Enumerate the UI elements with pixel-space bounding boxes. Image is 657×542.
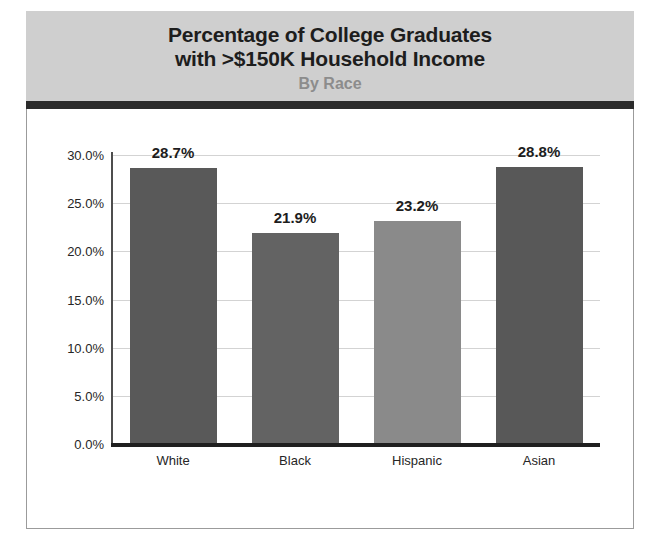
- bar-value-label-asian: 28.8%: [518, 143, 561, 160]
- title-divider-rule: [26, 101, 634, 109]
- y-tick-label: 0.0%: [34, 437, 104, 452]
- x-category-label-asian: Asian: [523, 453, 556, 468]
- chart-subtitle: By Race: [298, 74, 361, 93]
- y-tick-label: 15.0%: [34, 292, 104, 307]
- bar-asian[interactable]: [496, 167, 583, 444]
- y-axis-line: [111, 152, 113, 446]
- x-category-label-white: White: [156, 453, 189, 468]
- bar-hispanic[interactable]: [374, 221, 461, 444]
- bar-value-label-white: 28.7%: [152, 144, 195, 161]
- bar-black[interactable]: [252, 233, 339, 444]
- chart-title-line-1: Percentage of College Graduates: [168, 23, 492, 47]
- plot-area: [112, 155, 600, 444]
- y-tick-label: 25.0%: [34, 196, 104, 211]
- y-tick-label: 5.0%: [34, 388, 104, 403]
- x-axis-line: [111, 443, 600, 447]
- y-axis-tick-labels: 30.0%25.0%20.0%15.0%10.0%5.0%0.0%: [34, 155, 104, 444]
- chart-title-band: Percentage of College Graduates with >$1…: [26, 11, 634, 101]
- x-category-label-black: Black: [279, 453, 311, 468]
- y-tick-label: 30.0%: [34, 148, 104, 163]
- x-category-label-hispanic: Hispanic: [392, 453, 442, 468]
- y-tick-label: 20.0%: [34, 244, 104, 259]
- bar-white[interactable]: [130, 168, 217, 444]
- chart-title-line-2: with >$150K Household Income: [175, 47, 485, 71]
- bar-value-label-black: 21.9%: [274, 209, 317, 226]
- bar-value-label-hispanic: 23.2%: [396, 197, 439, 214]
- y-tick-label: 10.0%: [34, 340, 104, 355]
